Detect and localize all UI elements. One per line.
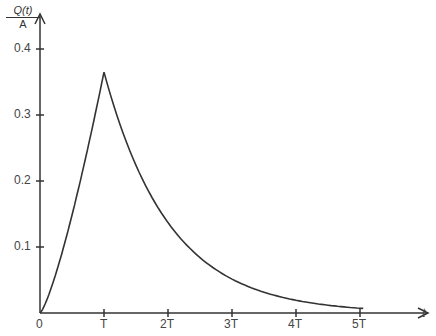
x-tick-label: 4T [288, 317, 302, 331]
y-tick-label: 0.2 [14, 173, 31, 187]
y-axis-label-denominator: A [6, 18, 40, 30]
y-axis-label: Q(t) A [6, 4, 40, 30]
x-tick-label: 3T [224, 317, 238, 331]
series-line [40, 72, 363, 313]
x-tick-label: 2T [160, 317, 174, 331]
plot-area [0, 0, 436, 336]
x-tick-label: 0 [36, 317, 43, 331]
x-tick-label: 5T [352, 317, 366, 331]
y-axis-label-numerator: Q(t) [6, 4, 40, 18]
y-tick-label: 0.1 [14, 239, 31, 253]
x-tick-label: T [100, 317, 107, 331]
x-axis-label: t [422, 306, 425, 320]
chart: Q(t) A t 0T2T3T4T5T0.10.20.30.4 [0, 0, 436, 336]
y-tick-label: 0.4 [14, 41, 31, 55]
y-tick-label: 0.3 [14, 107, 31, 121]
